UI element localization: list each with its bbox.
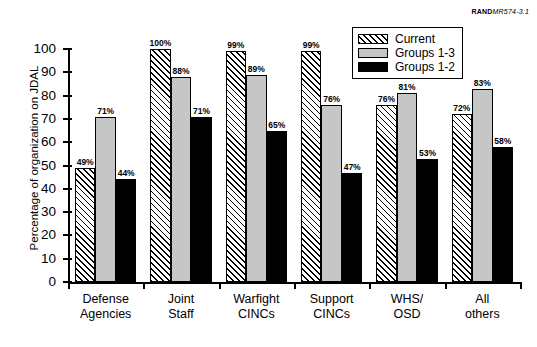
- legend-swatch-current-icon: [358, 34, 388, 44]
- bar: 47%: [342, 173, 363, 283]
- bar-value-label: 49%: [77, 157, 94, 167]
- legend-label-groups-1-3: Groups 1-3: [395, 46, 455, 60]
- bar: 76%: [321, 105, 342, 282]
- bar-group: 100%88%71%: [143, 49, 218, 282]
- bar: 72%: [452, 114, 473, 282]
- x-category-label-line: Agencies: [68, 307, 143, 322]
- bar-chart: RANDMR574-3.1 Percentage of organization…: [0, 0, 537, 347]
- bar-value-label: 89%: [248, 64, 265, 74]
- x-axis-category-labels: DefenseAgenciesJointStaffWarfightCINCsSu…: [68, 292, 520, 338]
- bar-value-label: 71%: [97, 106, 114, 116]
- bar: 83%: [472, 89, 493, 282]
- x-category-label-line: WHS/: [369, 292, 444, 307]
- bar-group-bars: 99%89%65%: [219, 49, 294, 282]
- x-tick: [294, 282, 296, 289]
- x-category-label: DefenseAgencies: [68, 292, 143, 322]
- legend-item-groups-1-2: Groups 1-2: [358, 60, 455, 74]
- bar-value-label: 53%: [419, 148, 436, 158]
- bar-group-bars: 76%81%53%: [369, 49, 444, 282]
- y-axis-title: Percentage of organization on JDAL: [28, 38, 40, 278]
- credit-brand: RAND: [472, 8, 493, 15]
- x-category-label: WHS/OSD: [369, 292, 444, 322]
- bar: 58%: [493, 147, 514, 282]
- x-category-label-line: Joint: [143, 292, 218, 307]
- y-tick-label: 0: [48, 274, 56, 289]
- bar-value-label: 76%: [323, 94, 340, 104]
- y-tick-label: 20: [41, 227, 56, 242]
- bar-value-label: 44%: [118, 168, 135, 178]
- bar: 71%: [95, 117, 116, 282]
- bar: 99%: [301, 51, 322, 282]
- bar-value-label: 81%: [398, 82, 415, 92]
- y-tick-label: 100: [33, 41, 56, 56]
- bar: 76%: [376, 105, 397, 282]
- x-category-label-line: CINCs: [219, 307, 294, 322]
- bar-value-label: 65%: [268, 120, 285, 130]
- bar: 99%: [226, 51, 247, 282]
- bar: 71%: [191, 117, 212, 282]
- bar: 89%: [246, 75, 267, 282]
- y-tick-label: 30: [41, 204, 56, 219]
- x-tick: [520, 282, 522, 289]
- bar: 88%: [171, 77, 192, 282]
- x-category-label-line: others: [445, 307, 520, 322]
- bar-group-bars: 72%83%58%: [445, 49, 520, 282]
- bar-group-bars: 100%88%71%: [143, 49, 218, 282]
- bar-value-label: 72%: [453, 103, 470, 113]
- bar-group: 76%81%53%: [369, 49, 444, 282]
- x-tick: [369, 282, 371, 289]
- bar-group-bars: 49%71%44%: [68, 49, 143, 282]
- bar-group: 49%71%44%: [68, 49, 143, 282]
- bar-value-label: 47%: [344, 162, 361, 172]
- bar-value-label: 99%: [303, 40, 320, 50]
- legend-item-groups-1-3: Groups 1-3: [358, 46, 455, 60]
- legend-label-groups-1-2: Groups 1-2: [395, 60, 455, 74]
- bar: 49%: [75, 168, 96, 282]
- y-tick-label: 70: [41, 110, 56, 125]
- bar-value-label: 71%: [193, 106, 210, 116]
- bar-group: 99%76%47%: [294, 49, 369, 282]
- legend-label-current: Current: [395, 32, 435, 46]
- bar-value-label: 88%: [172, 66, 189, 76]
- x-tick: [68, 282, 70, 289]
- credit-reference: MR574-3.1: [493, 8, 529, 15]
- legend-swatch-groups-1-2-icon: [358, 62, 388, 72]
- bar-group: 99%89%65%: [219, 49, 294, 282]
- plot-area: 1009080706050403020100 49%71%44%100%88%7…: [68, 49, 520, 282]
- y-tick-label: 60: [41, 134, 56, 149]
- bar-value-label: 99%: [227, 40, 244, 50]
- x-category-label: WarfightCINCs: [219, 292, 294, 322]
- x-category-label: SupportCINCs: [294, 292, 369, 322]
- x-category-label-line: Warfight: [219, 292, 294, 307]
- bar: 100%: [150, 49, 171, 282]
- y-tick-label: 50: [41, 157, 56, 172]
- bar-group-bars: 99%76%47%: [294, 49, 369, 282]
- bar-group: 72%83%58%: [445, 49, 520, 282]
- x-category-label-line: CINCs: [294, 307, 369, 322]
- bar-value-label: 83%: [474, 78, 491, 88]
- bar-value-label: 58%: [494, 136, 511, 146]
- x-category-label: Allothers: [445, 292, 520, 322]
- y-tick-label: 90: [41, 64, 56, 79]
- x-tick: [143, 282, 145, 289]
- legend-item-current: Current: [358, 32, 455, 46]
- x-category-label-line: OSD: [369, 307, 444, 322]
- bar-value-label: 100%: [150, 38, 172, 48]
- bar: 81%: [397, 93, 418, 282]
- x-category-label-line: Support: [294, 292, 369, 307]
- legend-swatch-groups-1-3-icon: [358, 48, 388, 58]
- bar-value-label: 76%: [378, 94, 395, 104]
- chart-legend: Current Groups 1-3 Groups 1-2: [352, 27, 463, 79]
- bar: 65%: [267, 131, 288, 282]
- x-category-label-line: Defense: [68, 292, 143, 307]
- x-tick: [445, 282, 447, 289]
- bar: 53%: [417, 159, 438, 282]
- y-tick-label: 10: [41, 250, 56, 265]
- x-category-label-line: Staff: [143, 307, 218, 322]
- bar: 44%: [116, 179, 137, 282]
- x-tick: [219, 282, 221, 289]
- y-tick-label: 80: [41, 87, 56, 102]
- x-category-label-line: All: [445, 292, 520, 307]
- y-tick-label: 40: [41, 180, 56, 195]
- x-category-label: JointStaff: [143, 292, 218, 322]
